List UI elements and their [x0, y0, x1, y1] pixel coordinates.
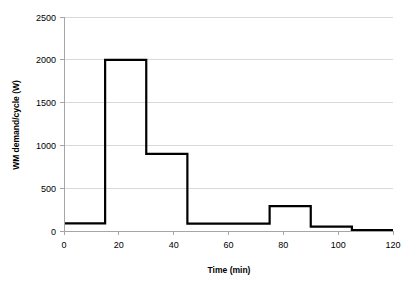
y-tick-label-500: 500	[41, 184, 56, 194]
y-axis-title: WM demand/cycle (W)	[11, 80, 21, 170]
x-tick-label-40: 40	[169, 240, 179, 250]
gridlines	[64, 17, 393, 231]
chart-figure: 05001000150020002500 020406080100120 WM …	[0, 0, 413, 286]
x-tick-label-100: 100	[331, 240, 346, 250]
y-tick-label-1500: 1500	[36, 98, 56, 108]
x-tick-label-20: 20	[114, 240, 124, 250]
y-tick-label-2000: 2000	[36, 55, 56, 65]
x-axis-ticks: 020406080100120	[61, 231, 400, 250]
x-tick-label-0: 0	[61, 240, 66, 250]
axes	[64, 17, 393, 231]
y-tick-label-2500: 2500	[36, 13, 56, 23]
x-axis-title: Time (min)	[208, 265, 251, 275]
y-tick-label-0: 0	[51, 227, 56, 237]
x-tick-label-60: 60	[223, 240, 233, 250]
wm-demand-step-chart: 05001000150020002500 020406080100120 WM …	[0, 0, 413, 286]
y-axis-ticks: 05001000150020002500	[36, 13, 64, 237]
y-tick-label-1000: 1000	[36, 141, 56, 151]
x-tick-label-120: 120	[385, 240, 400, 250]
x-tick-label-80: 80	[278, 240, 288, 250]
